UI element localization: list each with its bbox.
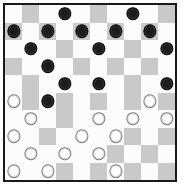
board-square-r1-c3[interactable] (56, 23, 73, 41)
board-square-r0-c9[interactable] (158, 5, 175, 23)
board-square-r0-c3[interactable] (56, 5, 73, 23)
black-piece[interactable] (58, 77, 71, 91)
white-piece[interactable] (92, 112, 105, 126)
board-square-r4-c5[interactable] (90, 75, 107, 93)
board-square-r2-c2[interactable] (39, 40, 56, 58)
board-square-r5-c3[interactable] (56, 93, 73, 111)
board-square-r0-c7[interactable] (124, 5, 141, 23)
board-square-r3-c5[interactable] (90, 58, 107, 76)
board-square-r1-c0[interactable] (5, 23, 22, 41)
board-square-r5-c7[interactable] (124, 93, 141, 111)
black-piece[interactable] (143, 24, 156, 38)
board-square-r8-c8[interactable] (141, 145, 158, 163)
board-square-r1-c2[interactable] (39, 23, 56, 41)
board-square-r8-c2[interactable] (39, 145, 56, 163)
black-piece[interactable] (160, 42, 173, 56)
board-square-r0-c1[interactable] (22, 5, 39, 23)
board-square-r2-c6[interactable] (107, 40, 124, 58)
draughts-board[interactable] (3, 3, 177, 182)
board-square-r2-c0[interactable] (5, 40, 22, 58)
black-piece[interactable] (92, 77, 105, 91)
board-square-r6-c2[interactable] (39, 110, 56, 128)
board-square-r6-c1[interactable] (22, 110, 39, 128)
board-square-r6-c4[interactable] (73, 110, 90, 128)
board-square-r8-c5[interactable] (90, 145, 107, 163)
board-square-r1-c6[interactable] (107, 23, 124, 41)
white-piece[interactable] (7, 94, 20, 108)
board-square-r1-c1[interactable] (22, 23, 39, 41)
board-square-r5-c0[interactable] (5, 93, 22, 111)
board-square-r9-c1[interactable] (22, 163, 39, 181)
black-piece[interactable] (7, 24, 20, 38)
black-piece[interactable] (41, 59, 54, 73)
white-piece[interactable] (7, 129, 20, 143)
board-square-r4-c6[interactable] (107, 75, 124, 93)
white-piece[interactable] (24, 147, 37, 161)
board-square-r0-c4[interactable] (73, 5, 90, 23)
black-piece[interactable] (92, 42, 105, 56)
black-piece[interactable] (126, 7, 139, 21)
black-piece[interactable] (109, 24, 122, 38)
board-square-r5-c1[interactable] (22, 93, 39, 111)
board-square-r7-c0[interactable] (5, 128, 22, 146)
board-square-r7-c3[interactable] (56, 128, 73, 146)
white-piece[interactable] (75, 129, 88, 143)
board-square-r7-c6[interactable] (107, 128, 124, 146)
board-square-r0-c6[interactable] (107, 5, 124, 23)
board-square-r5-c6[interactable] (107, 93, 124, 111)
white-piece[interactable] (92, 147, 105, 161)
board-square-r9-c9[interactable] (158, 163, 175, 181)
board-square-r7-c9[interactable] (158, 128, 175, 146)
board-square-r8-c7[interactable] (124, 145, 141, 163)
board-square-r5-c9[interactable] (158, 93, 175, 111)
black-piece[interactable] (160, 77, 173, 91)
white-piece[interactable] (24, 112, 37, 126)
white-piece[interactable] (160, 112, 173, 126)
board-square-r9-c8[interactable] (141, 163, 158, 181)
board-square-r9-c3[interactable] (56, 163, 73, 181)
board-square-r0-c2[interactable] (39, 5, 56, 23)
board-square-r3-c3[interactable] (56, 58, 73, 76)
board-square-r2-c5[interactable] (90, 40, 107, 58)
board-square-r9-c0[interactable] (5, 163, 22, 181)
board-square-r4-c0[interactable] (5, 75, 22, 93)
board-square-r3-c0[interactable] (5, 58, 22, 76)
board-square-r4-c4[interactable] (73, 75, 90, 93)
board-square-r6-c6[interactable] (107, 110, 124, 128)
board-square-r6-c0[interactable] (5, 110, 22, 128)
board-square-r2-c4[interactable] (73, 40, 90, 58)
board-square-r4-c3[interactable] (56, 75, 73, 93)
black-piece[interactable] (41, 94, 54, 108)
board-square-r9-c5[interactable] (90, 163, 107, 181)
board-square-r6-c8[interactable] (141, 110, 158, 128)
board-square-r8-c9[interactable] (158, 145, 175, 163)
board-square-r1-c5[interactable] (90, 23, 107, 41)
board-square-r3-c4[interactable] (73, 58, 90, 76)
black-piece[interactable] (75, 24, 88, 38)
board-square-r4-c7[interactable] (124, 75, 141, 93)
board-square-r0-c8[interactable] (141, 5, 158, 23)
board-square-r0-c5[interactable] (90, 5, 107, 23)
board-square-r6-c9[interactable] (158, 110, 175, 128)
board-square-r8-c1[interactable] (22, 145, 39, 163)
white-piece[interactable] (7, 164, 20, 178)
board-square-r7-c5[interactable] (90, 128, 107, 146)
white-piece[interactable] (109, 164, 122, 178)
board-square-r3-c1[interactable] (22, 58, 39, 76)
board-square-r3-c6[interactable] (107, 58, 124, 76)
board-square-r7-c8[interactable] (141, 128, 158, 146)
board-square-r6-c5[interactable] (90, 110, 107, 128)
white-piece[interactable] (126, 112, 139, 126)
board-square-r5-c2[interactable] (39, 93, 56, 111)
board-square-r6-c3[interactable] (56, 110, 73, 128)
white-piece[interactable] (41, 164, 54, 178)
board-square-r9-c4[interactable] (73, 163, 90, 181)
board-square-r3-c7[interactable] (124, 58, 141, 76)
board-square-r0-c0[interactable] (5, 5, 22, 23)
black-piece[interactable] (24, 42, 37, 56)
board-square-r3-c9[interactable] (158, 58, 175, 76)
white-piece[interactable] (109, 129, 122, 143)
board-square-r5-c5[interactable] (90, 93, 107, 111)
board-square-r9-c2[interactable] (39, 163, 56, 181)
black-piece[interactable] (58, 7, 71, 21)
